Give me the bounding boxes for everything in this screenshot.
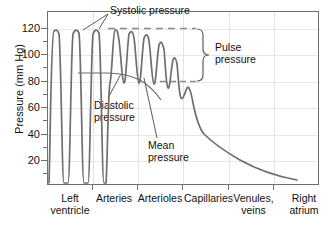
x-tickmark-2 xyxy=(137,185,138,190)
y-tick-100: 100 xyxy=(14,49,40,60)
x-tickmark-5 xyxy=(273,185,274,190)
x-tickmark-3 xyxy=(182,185,183,190)
annotation-systolic-pressure-line1: Systolic pressure xyxy=(110,5,190,17)
x-category-left-ventricle: Left ventricle xyxy=(47,193,93,216)
annotation-diastolic-pressure-line1: Diastolic xyxy=(94,100,135,112)
x-category-right-atrium-line1: Right xyxy=(281,193,327,205)
x-category-right-atrium-line2: atrium xyxy=(281,205,327,217)
x-category-capillaries: Capillaries xyxy=(181,193,236,205)
annotation-mean-pressure-line1: Mean xyxy=(148,140,189,152)
annotation-diastolic-pressure: Diastolic pressure xyxy=(94,100,135,123)
annotation-systolic-pressure: Systolic pressure xyxy=(110,5,190,17)
x-category-left-ventricle-line2: ventricle xyxy=(47,205,93,217)
pressure-chart-figure: Pressure (mm Hg) 120 100 80 60 40 20 xyxy=(0,0,334,233)
x-category-capillaries-line1: Capillaries xyxy=(181,193,236,205)
y-tick-60: 60 xyxy=(14,102,40,113)
x-category-arteries-line1: Arteries xyxy=(90,193,138,205)
x-tickmark-4 xyxy=(228,185,229,190)
gridline-vertical-5 xyxy=(274,12,275,184)
x-tickmark-1 xyxy=(92,185,93,190)
gridline-horizontal-120 xyxy=(48,29,318,30)
gridline-horizontal-80 xyxy=(48,82,318,83)
x-category-arteries: Arteries xyxy=(90,193,138,205)
gridline-vertical-2 xyxy=(138,12,139,184)
y-tick-120: 120 xyxy=(14,23,40,34)
annotation-pulse-pressure: Pulse pressure xyxy=(215,42,256,65)
x-category-arterioles-line1: Arterioles xyxy=(134,193,186,205)
x-category-arterioles: Arterioles xyxy=(134,193,186,205)
gridline-horizontal-100 xyxy=(48,55,318,56)
annotation-pulse-pressure-line2: pressure xyxy=(215,54,256,66)
gridline-horizontal-60 xyxy=(48,108,318,109)
gridline-vertical-1 xyxy=(93,12,94,184)
gridline-vertical-4 xyxy=(229,12,230,184)
annotation-pulse-pressure-line1: Pulse xyxy=(215,42,256,54)
x-category-venules-veins: Venules, veins xyxy=(230,193,277,216)
y-tick-40: 40 xyxy=(14,129,40,140)
x-category-venules-veins-line1: Venules, xyxy=(230,193,277,205)
y-tick-80: 80 xyxy=(14,76,40,87)
y-axis-tick-labels: 120 100 80 60 40 20 xyxy=(14,0,40,233)
annotation-mean-pressure: Mean pressure xyxy=(148,140,189,163)
x-category-left-ventricle-line1: Left xyxy=(47,193,93,205)
annotation-diastolic-pressure-line2: pressure xyxy=(94,112,135,124)
x-category-venules-veins-line2: veins xyxy=(230,205,277,217)
gridline-horizontal-40 xyxy=(48,135,318,136)
x-category-right-atrium: Right atrium xyxy=(281,193,327,216)
annotation-mean-pressure-line2: pressure xyxy=(148,152,189,164)
y-tick-20: 20 xyxy=(14,155,40,166)
